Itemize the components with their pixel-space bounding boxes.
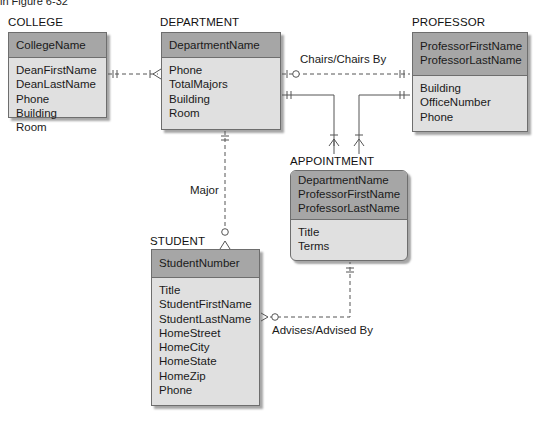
advises-line: [270, 262, 350, 317]
relationship-lines: [0, 0, 541, 421]
optional-circle-icon: [293, 71, 300, 78]
major-label: Major: [190, 184, 219, 196]
advises-label: Advises/Advised By: [272, 324, 373, 336]
crows-foot-icon: [261, 313, 268, 321]
crows-foot-icon: [220, 241, 230, 249]
chairs-label: Chairs/Chairs By: [300, 53, 386, 65]
optional-circle-icon: [222, 229, 229, 236]
department-appointment-line: [282, 95, 334, 154]
professor-appointment-line: [359, 95, 410, 154]
optional-circle-icon: [272, 314, 279, 321]
